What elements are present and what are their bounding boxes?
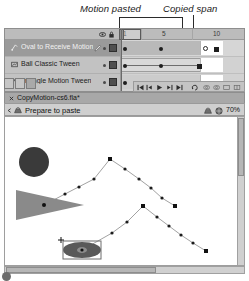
layer-outline-color-swatch[interactable] — [109, 78, 117, 86]
layer-visibility-dot[interactable] — [103, 64, 106, 67]
circle-shape — [19, 147, 49, 177]
vertical-scrollbar[interactable] — [237, 116, 245, 266]
document-tab-label: CopyMotion-cs6.fla* — [17, 94, 80, 101]
layer-tools — [4, 78, 44, 88]
horizontal-scrollbar-thumb[interactable] — [6, 267, 156, 273]
edit-scene-icon[interactable] — [204, 107, 212, 115]
layer-outline-color-swatch[interactable] — [109, 61, 117, 69]
new-folder-button[interactable] — [15, 78, 25, 89]
stage-content — [5, 117, 244, 265]
horizontal-scrollbar[interactable] — [4, 266, 245, 274]
layer-row-ball-classic-tween[interactable]: Ball Classic Tween — [5, 57, 120, 74]
play-button[interactable] — [156, 84, 163, 91]
layer-name-label: Oval to Receive Motion — [21, 43, 93, 50]
layer-row-oval-to-receive-motion[interactable]: Oval to Receive Motion — [5, 40, 120, 57]
onion-skin-outlines-button[interactable] — [213, 84, 220, 91]
frame-row-oval[interactable] — [121, 40, 244, 57]
layer-visibility-dot[interactable] — [103, 81, 106, 84]
frame-row-ball[interactable] — [121, 57, 244, 74]
triangle-anchor-point — [42, 203, 46, 207]
triangle-motion-path — [44, 157, 177, 208]
edit-bar: Prepare to paste 70% — [4, 103, 245, 116]
step-forward-one-frame-button[interactable] — [166, 84, 173, 91]
figure-step-badge — [2, 272, 11, 281]
keyframe[interactable] — [159, 47, 163, 51]
keyframe-end[interactable] — [214, 47, 219, 52]
ruler-tick-10: 10 — [213, 30, 220, 37]
layer-outline-color-swatch[interactable] — [109, 44, 117, 52]
playback-controls — [133, 81, 245, 92]
layer-visibility-dot[interactable] — [103, 47, 106, 50]
keyframe[interactable] — [123, 47, 127, 51]
delete-layer-button[interactable] — [26, 78, 36, 89]
go-to-first-frame-button[interactable] — [137, 84, 144, 91]
edit-pencil-icon[interactable] — [94, 44, 102, 52]
scene-label: Prepare to paste — [25, 106, 80, 115]
keyframe-hollow[interactable] — [203, 46, 208, 51]
ruler-tick-5: 5 — [162, 30, 166, 37]
eye-icon[interactable] — [99, 31, 106, 38]
motion-layer-icon — [11, 44, 18, 51]
timeline-ruler[interactable]: 1 5 10 — [121, 29, 244, 40]
lock-icon[interactable] — [108, 31, 115, 38]
go-to-last-frame-button[interactable] — [176, 84, 183, 91]
empty-frames[interactable] — [200, 58, 223, 72]
modify-onion-markers-button[interactable] — [233, 84, 241, 91]
zoom-level-value[interactable]: 70% — [226, 106, 240, 113]
copied-span-selection — [121, 29, 141, 40]
layer-name-label: Ball Classic Tween — [21, 60, 80, 67]
keyframe[interactable] — [159, 64, 163, 68]
edit-multiple-frames-button[interactable] — [223, 84, 230, 91]
keyframe-end[interactable] — [197, 64, 202, 69]
close-icon[interactable] — [9, 96, 14, 101]
selected-oval-shape — [58, 237, 101, 259]
layer-list-header — [5, 29, 120, 40]
back-arrow-icon[interactable] — [7, 108, 12, 113]
loop-playback-button[interactable] — [191, 84, 199, 91]
vertical-scrollbar-thumb[interactable] — [238, 118, 244, 176]
playhead[interactable] — [121, 29, 122, 91]
classic-layer-icon — [11, 61, 18, 68]
new-layer-button[interactable] — [4, 78, 14, 89]
onion-skin-button[interactable] — [203, 84, 210, 91]
keyframe[interactable] — [123, 64, 127, 68]
triangle-shape — [16, 190, 84, 220]
document-tab[interactable]: CopyMotion-cs6.fla* — [4, 92, 245, 103]
edit-symbols-icon[interactable] — [215, 107, 223, 115]
annotation-motion-pasted: Motion pasted — [80, 3, 141, 14]
scene-icon — [14, 107, 22, 114]
leader-line-motion-pasted-horiz — [119, 17, 182, 18]
annotation-copied-span: Copied span — [163, 3, 217, 14]
step-back-one-frame-button[interactable] — [146, 84, 153, 91]
keyframe[interactable] — [123, 81, 127, 85]
leader-line-motion-pasted-vert — [119, 17, 120, 28]
leader-line-motion-pasted-right — [182, 17, 183, 28]
stage-canvas[interactable] — [4, 116, 245, 266]
